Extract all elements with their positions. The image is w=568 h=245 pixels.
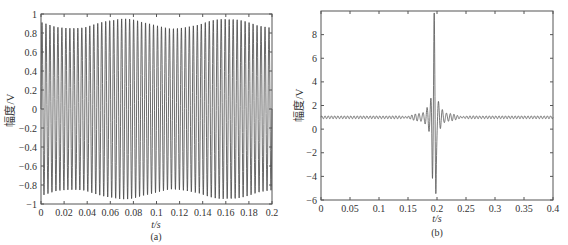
chart-panel-b: 86420−2−4−6 00.050.10.150.20.250.30.350.… [290,0,568,245]
y-tick-label: 2 [312,100,317,111]
y-tick-label: 0.4 [25,66,38,77]
y-tick-label: 8 [312,29,317,40]
chart-b-ylabel: 幅度/V [292,88,305,121]
signal-line [321,13,553,194]
x-tick-label: 0.06 [102,207,120,218]
y-tick-label: −4 [306,171,317,182]
y-tick-label: 6 [312,53,317,64]
chart-b-plot-area [321,13,553,194]
y-tick-label: 0 [32,104,37,115]
chart-b-xlabel: t/s [432,213,442,224]
x-tick-label: 0.25 [457,203,475,214]
y-tick-label: 1 [32,9,37,20]
y-tick-label: −0.8 [19,180,37,191]
y-tick-label: 0 [312,124,317,135]
x-tick-label: 0.14 [194,207,212,218]
x-tick-label: 0.4 [547,203,560,214]
chart-a-panel-label: (a) [150,231,161,243]
y-tick-label: −2 [306,147,317,158]
chart-a-svg: 10.80.60.40.20−0.2−0.4−0.6−0.8−1 00.020.… [0,0,290,245]
chart-b-svg: 86420−2−4−6 00.050.10.150.20.250.30.350.… [290,0,568,245]
y-tick-label: −1 [26,199,37,210]
y-tick-label: 0.8 [25,28,38,39]
chart-b-panel-label: (b) [431,227,443,239]
x-tick-label: 0.08 [125,207,143,218]
x-tick-label: 0.3 [489,203,502,214]
y-tick-label: 4 [312,76,317,87]
x-tick-label: 0.35 [515,203,533,214]
x-tick-label: 0.12 [171,207,189,218]
chart-a-plot-area [41,19,272,199]
x-tick-label: 0.1 [150,207,163,218]
x-tick-label: 0.05 [341,203,359,214]
x-tick-label: 0.2 [266,207,279,218]
y-tick-label: 0.2 [25,85,38,96]
x-tick-label: 0 [319,203,324,214]
x-tick-label: 0 [39,207,44,218]
y-tick-label: 0.6 [25,47,38,58]
y-tick-label: −0.6 [19,161,37,172]
x-tick-label: 0.1 [373,203,386,214]
chart-panel-a: 10.80.60.40.20−0.2−0.4−0.6−0.8−1 00.020.… [0,0,290,245]
chart-b-frame [321,11,553,200]
x-tick-label: 0.04 [78,207,96,218]
x-tick-label: 0.18 [240,207,258,218]
chart-a-xlabel: t/s [151,219,161,230]
y-tick-label: −0.4 [19,142,37,153]
x-tick-label: 0.16 [217,207,235,218]
signal-line [41,19,272,199]
x-tick-label: 0.02 [55,207,73,218]
x-tick-label: 0.15 [399,203,417,214]
y-tick-label: −6 [306,195,317,206]
y-tick-label: −0.2 [19,123,37,134]
chart-a-ylabel: 幅度/V [3,93,16,126]
